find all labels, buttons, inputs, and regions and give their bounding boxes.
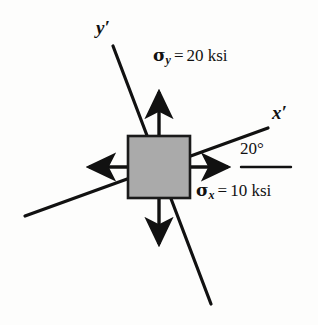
sigma-y-equals: = — [171, 46, 187, 65]
rotation-angle-label: 20° — [240, 140, 264, 157]
sigma-x-symbol: σ — [196, 180, 209, 200]
sigma-y-label: σy=20 ksi — [153, 47, 228, 66]
x-prime-axis-label: x′ — [272, 103, 287, 122]
sigma-x-subscript: x — [209, 188, 215, 202]
stress-element-square — [128, 136, 190, 198]
sigma-y-symbol: σ — [153, 45, 166, 65]
stress-element-figure: y′ x′ σy=20 ksi σx=10 ksi 20° — [0, 0, 318, 325]
sigma-y-value: 20 ksi — [186, 46, 227, 65]
sigma-x-equals: = — [215, 181, 231, 200]
sigma-x-value: 10 ksi — [230, 181, 271, 200]
y-prime-axis-label: y′ — [96, 18, 110, 37]
sigma-x-label: σx=10 ksi — [196, 182, 271, 201]
